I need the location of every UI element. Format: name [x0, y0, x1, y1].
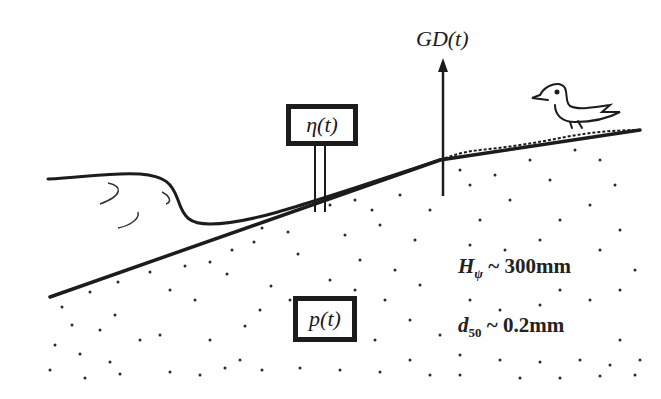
- beach-diagram: η(t) p(t) GD(t) Hψ ~ 300mm d50 ~ 0.2mm: [0, 0, 661, 399]
- water-level-label: η(t): [306, 112, 338, 138]
- grain-size-relation: ~: [487, 313, 498, 337]
- wave-height-symbol: H: [458, 254, 474, 278]
- wave-curl-3: [162, 192, 169, 204]
- wave-surface: [48, 160, 440, 224]
- pressure-sensor-box: p(t): [293, 296, 357, 342]
- wave-height-parameter: Hψ ~ 300mm: [458, 254, 571, 282]
- wave-height-value: 300mm: [504, 254, 571, 278]
- pressure-label: p(t): [309, 306, 341, 332]
- grain-size-parameter: d50 ~ 0.2mm: [458, 313, 564, 341]
- wave-curl-2: [118, 212, 138, 228]
- wave-height-subscript: ψ: [474, 266, 483, 281]
- gd-arrow-head: [438, 58, 448, 72]
- grain-size-value: 0.2mm: [503, 313, 564, 337]
- ground-displacement-label: GD(t): [416, 28, 469, 50]
- wave-curl-1: [100, 183, 118, 204]
- water-level-sensor-box: η(t): [286, 104, 358, 146]
- grain-size-symbol: d: [458, 313, 469, 337]
- bird-icon: [532, 84, 620, 128]
- grain-size-subscript: 50: [469, 325, 482, 340]
- wave-height-relation: ~: [488, 254, 499, 278]
